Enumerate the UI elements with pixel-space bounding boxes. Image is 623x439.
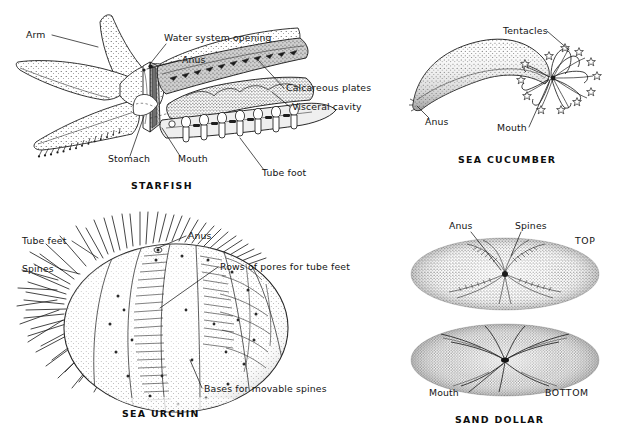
label-text: Tentacles bbox=[502, 25, 548, 36]
panel-sea-urchin: Tube feet Spines Anus Rows of pores for … bbox=[0, 200, 395, 439]
label-text: Bases for movable spines bbox=[204, 383, 327, 394]
label-text: Tube foot bbox=[261, 167, 307, 178]
sand-dollar-top-view bbox=[411, 238, 599, 310]
label-text: Mouth bbox=[497, 122, 527, 133]
label-text: Rows of pores for tube feet bbox=[220, 261, 350, 272]
starfish-arm-lower-left bbox=[34, 100, 139, 158]
sea-urchin-caption: SEA URCHIN bbox=[122, 408, 200, 419]
sea-cucumber-mouth-point bbox=[551, 76, 556, 81]
sanddollar-label-top: TOP bbox=[574, 235, 595, 246]
sand-dollar-bottom-view bbox=[411, 324, 599, 396]
sand-dollar-anus-point bbox=[502, 271, 508, 277]
label-text: Water system opening bbox=[164, 32, 272, 43]
sea-cucumber-caption: SEA CUCUMBER bbox=[458, 154, 556, 165]
label-text: Mouth bbox=[178, 153, 208, 164]
sand-dollar-mouth-point bbox=[501, 357, 509, 362]
label-text: Stomach bbox=[108, 153, 150, 164]
sanddollar-label-bottom: BOTTOM bbox=[545, 387, 589, 398]
urchin-label-spines: Spines bbox=[22, 263, 80, 274]
panel-sand-dollar: Anus Spines TOP Mouth BOTTOM SAND DOLLAR bbox=[393, 200, 623, 439]
figure-plate: Arm Water system opening Anus Calcareous… bbox=[0, 0, 623, 439]
panel-starfish: Arm Water system opening Anus Calcareous… bbox=[0, 0, 395, 200]
label-text: Tube feet bbox=[21, 235, 67, 246]
label-text: Spines bbox=[22, 263, 54, 274]
sand-dollar-caption: SAND DOLLAR bbox=[455, 414, 544, 425]
label-text: Calcareous plates bbox=[286, 82, 371, 93]
urchin-label-tube-feet: Tube feet bbox=[21, 235, 98, 258]
starfish-label-tube-foot: Tube foot bbox=[240, 138, 307, 178]
panel-sea-cucumber: Tentacles Anus Mouth SEA CUCUMBER bbox=[393, 0, 623, 200]
label-text: TOP bbox=[574, 235, 595, 246]
label-text: Arm bbox=[26, 29, 46, 40]
label-text: Visceral cavity bbox=[292, 101, 362, 112]
starfish-label-arm: Arm bbox=[26, 29, 98, 47]
label-text: Spines bbox=[515, 220, 547, 231]
sea-cucumber-illustration bbox=[409, 39, 601, 114]
label-text: Anus bbox=[449, 220, 473, 231]
label-text: BOTTOM bbox=[545, 387, 589, 398]
label-text: Mouth bbox=[429, 387, 459, 398]
label-text: Anus bbox=[182, 54, 206, 65]
starfish-caption: STARFISH bbox=[131, 180, 193, 191]
label-text: Anus bbox=[188, 230, 212, 241]
